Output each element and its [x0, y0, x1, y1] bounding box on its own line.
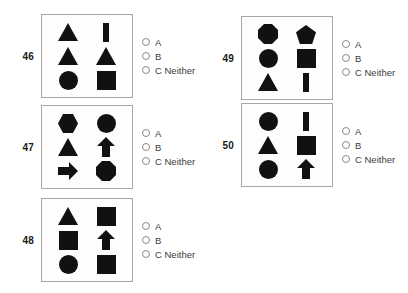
triangle-icon	[57, 206, 79, 226]
arrow-up-icon	[97, 137, 115, 157]
question-50: 50ABC Neither	[214, 103, 395, 187]
pentagon-icon	[296, 25, 316, 44]
shape-cell-r2-c2	[287, 46, 325, 70]
triangle-icon	[57, 22, 79, 42]
square-icon	[97, 71, 116, 90]
answer-options: ABC Neither	[142, 221, 195, 260]
answer-option[interactable]: B	[342, 140, 395, 151]
square-icon	[59, 231, 78, 250]
question-number: 48	[14, 235, 34, 246]
shape-cell-r1-c1	[49, 204, 87, 228]
question-number: 47	[14, 142, 34, 153]
answer-option-label: B	[155, 51, 161, 62]
radio-button-icon[interactable]	[142, 157, 150, 165]
answer-option[interactable]: A	[142, 221, 195, 232]
answer-option[interactable]: B	[142, 235, 195, 246]
answer-option-label: B	[355, 53, 361, 64]
answer-option[interactable]: A	[142, 37, 195, 48]
worksheet: 46ABC Neither47ABC Neither48ABC Neither4…	[0, 0, 408, 293]
shape-cell-r2-c1	[49, 44, 87, 68]
answer-option[interactable]: C Neither	[142, 65, 195, 76]
shape-cell-r1-c1	[49, 111, 87, 135]
answer-option-label: C Neither	[155, 249, 195, 260]
arrow-up-icon	[297, 159, 315, 179]
answer-options: ABC Neither	[142, 128, 195, 167]
shape-cell-r2-c2	[87, 44, 125, 68]
answer-option-label: B	[155, 142, 161, 153]
answer-option-label: A	[155, 128, 161, 139]
shape-cell-r2-c1	[249, 133, 287, 157]
shape-grid	[241, 103, 333, 187]
vertical-bar-icon	[303, 112, 309, 131]
answer-option[interactable]: B	[342, 53, 395, 64]
radio-button-icon[interactable]	[342, 127, 350, 135]
shape-cell-r1-c2	[87, 20, 125, 44]
radio-button-icon[interactable]	[142, 236, 150, 244]
answer-option[interactable]: C Neither	[342, 67, 395, 78]
radio-button-icon[interactable]	[142, 250, 150, 258]
triangle-icon	[257, 135, 279, 155]
shape-cell-r3-c2	[87, 68, 125, 92]
answer-option-label: B	[155, 235, 161, 246]
answer-option-label: B	[355, 140, 361, 151]
shape-cell-r2-c1	[49, 135, 87, 159]
question-number: 49	[214, 53, 234, 64]
shape-cell-r2-c2	[87, 135, 125, 159]
square-icon	[297, 136, 316, 155]
answer-option-label: A	[355, 39, 361, 50]
shape-cell-r3-c1	[49, 159, 87, 183]
square-icon	[297, 49, 316, 68]
radio-button-icon[interactable]	[142, 38, 150, 46]
radio-button-icon[interactable]	[342, 68, 350, 76]
radio-button-icon[interactable]	[142, 52, 150, 60]
vertical-bar-icon	[303, 73, 309, 92]
shape-cell-r1-c2	[287, 109, 325, 133]
answer-options: ABC Neither	[342, 126, 395, 165]
shape-cell-r3-c1	[49, 68, 87, 92]
shape-cell-r1-c2	[87, 111, 125, 135]
circle-icon	[59, 255, 78, 274]
answer-option-label: A	[155, 37, 161, 48]
answer-option[interactable]: C Neither	[142, 249, 195, 260]
radio-button-icon[interactable]	[342, 40, 350, 48]
radio-button-icon[interactable]	[342, 54, 350, 62]
answer-option-label: C Neither	[155, 156, 195, 167]
answer-option[interactable]: A	[342, 126, 395, 137]
answer-option[interactable]: A	[142, 128, 195, 139]
arrow-right-icon	[58, 162, 78, 180]
shape-cell-r3-c2	[287, 70, 325, 94]
answer-option-label: A	[355, 126, 361, 137]
shape-cell-r2-c1	[49, 228, 87, 252]
radio-button-icon[interactable]	[142, 143, 150, 151]
radio-button-icon[interactable]	[142, 66, 150, 74]
answer-option[interactable]: C Neither	[342, 154, 395, 165]
question-46: 46ABC Neither	[14, 14, 195, 98]
circle-icon	[259, 49, 278, 68]
circle-icon	[259, 112, 278, 131]
answer-option-label: C Neither	[355, 67, 395, 78]
shape-grid	[41, 198, 133, 282]
question-48: 48ABC Neither	[14, 198, 195, 282]
shape-cell-r3-c1	[249, 70, 287, 94]
answer-option[interactable]: C Neither	[142, 156, 195, 167]
radio-button-icon[interactable]	[342, 141, 350, 149]
answer-option[interactable]: A	[342, 39, 395, 50]
triangle-icon	[257, 72, 279, 92]
question-47: 47ABC Neither	[14, 105, 195, 189]
shape-cell-r3-c2	[87, 252, 125, 276]
question-number: 50	[214, 140, 234, 151]
shape-cell-r1-c1	[249, 22, 287, 46]
hexagon-icon	[58, 114, 78, 133]
shape-cell-r3-c1	[49, 252, 87, 276]
answer-option[interactable]: B	[142, 51, 195, 62]
radio-button-icon[interactable]	[342, 155, 350, 163]
radio-button-icon[interactable]	[142, 129, 150, 137]
triangle-icon	[95, 46, 117, 66]
answer-option[interactable]: B	[142, 142, 195, 153]
shape-cell-r1-c2	[287, 22, 325, 46]
shape-cell-r3-c2	[87, 159, 125, 183]
answer-option-label: C Neither	[155, 65, 195, 76]
answer-options: ABC Neither	[142, 37, 195, 76]
radio-button-icon[interactable]	[142, 222, 150, 230]
triangle-icon	[57, 137, 79, 157]
